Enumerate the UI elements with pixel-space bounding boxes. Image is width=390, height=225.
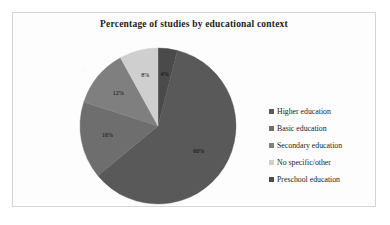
- legend-swatch-icon: [269, 143, 274, 148]
- chart-frame: Percentage of studies by educational con…: [12, 12, 376, 207]
- pie-slice-label: 60%: [193, 148, 204, 154]
- pie-slice-label: 8%: [141, 72, 149, 78]
- pie-slice-label: 12%: [113, 90, 124, 96]
- pie-chart: 4%60%16%12%8%: [69, 46, 247, 206]
- legend-item[interactable]: Basic education: [269, 120, 390, 137]
- legend-item-label: Preschool education: [277, 176, 340, 184]
- legend-item-label: Secondary education: [277, 142, 342, 150]
- pie-slices: [80, 48, 236, 204]
- legend-swatch-icon: [269, 126, 274, 131]
- legend-swatch-icon: [269, 160, 274, 165]
- chart-title: Percentage of studies by educational con…: [13, 19, 375, 29]
- pie-svg: 4%60%16%12%8%: [69, 46, 247, 206]
- legend-item-label: Basic education: [277, 125, 327, 133]
- legend-item[interactable]: Preschool education: [269, 171, 390, 188]
- legend-swatch-icon: [269, 109, 274, 114]
- legend-item[interactable]: Secondary education: [269, 137, 390, 154]
- legend-item[interactable]: No specific/other: [269, 154, 390, 171]
- pie-slice-label: 16%: [102, 132, 113, 138]
- chart-legend: Higher educationBasic educationSecondary…: [269, 103, 390, 188]
- pie-slice-label: 4%: [161, 71, 169, 77]
- legend-item-label: Higher education: [277, 108, 331, 116]
- legend-item[interactable]: Higher education: [269, 103, 390, 120]
- legend-item-label: No specific/other: [277, 159, 331, 167]
- legend-swatch-icon: [269, 177, 274, 182]
